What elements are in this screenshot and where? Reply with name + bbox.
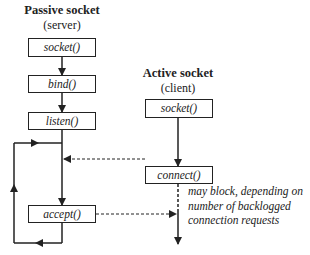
server-bind-box: bind() xyxy=(28,75,96,93)
blocking-annotation: may block, depending on number of backlo… xyxy=(188,184,303,228)
server-socket-box: socket() xyxy=(28,38,96,57)
annotation-line-1: may block, depending on xyxy=(188,184,303,199)
client-subtitle: (client) xyxy=(130,81,226,96)
server-listen-box: listen() xyxy=(28,112,96,130)
annotation-line-2: number of backlogged xyxy=(188,199,303,214)
client-socket-box: socket() xyxy=(145,99,213,118)
client-connect-box: connect() xyxy=(145,166,213,184)
annotation-line-3: connection requests xyxy=(188,213,303,228)
server-subtitle: (server) xyxy=(14,18,110,33)
server-title: Passive socket xyxy=(14,3,110,18)
client-title: Active socket xyxy=(130,66,226,81)
server-accept-box: accept() xyxy=(28,205,96,223)
